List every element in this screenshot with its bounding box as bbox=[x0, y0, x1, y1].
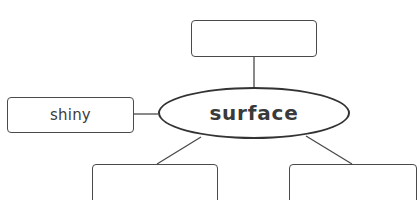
concept-web-diagram: shiny surface bbox=[0, 0, 420, 200]
center-concept-label: surface bbox=[209, 101, 298, 125]
node-top-box[interactable] bbox=[191, 20, 317, 57]
node-left-label: shiny bbox=[50, 106, 91, 124]
center-concept-ellipse: surface bbox=[158, 87, 350, 139]
node-bottom-right-box[interactable] bbox=[289, 164, 417, 200]
node-bottom-left-box[interactable] bbox=[92, 164, 218, 200]
connector-bottom-right bbox=[306, 136, 352, 164]
node-left-box[interactable]: shiny bbox=[7, 97, 134, 133]
connector-bottom-left bbox=[157, 137, 201, 164]
